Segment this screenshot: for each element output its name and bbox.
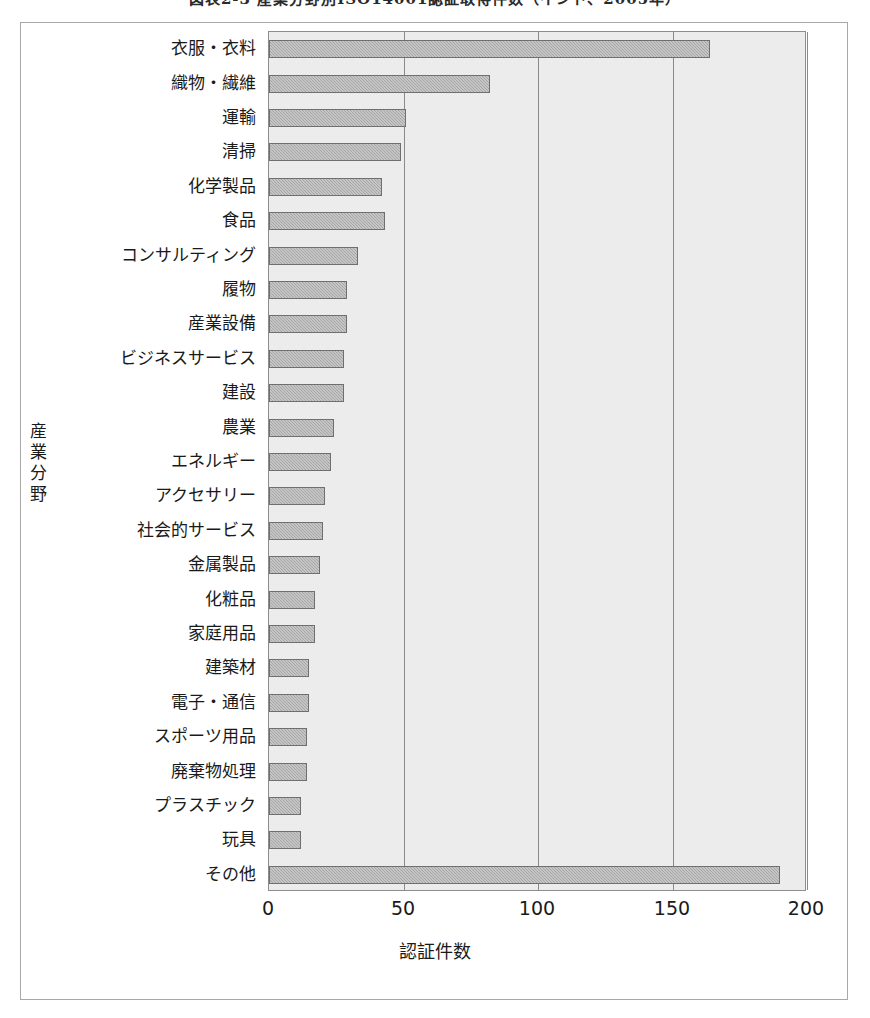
bar-row	[269, 143, 805, 161]
y-axis-label: 建設	[21, 383, 256, 401]
bar-row	[269, 797, 805, 815]
bar-row	[269, 281, 805, 299]
figure-caption-strip: 図表2-3 産業分野別ISO14001認証取得件数（インド、2005年）	[0, 0, 870, 15]
bar-row	[269, 40, 805, 58]
bar-row	[269, 556, 805, 574]
bar	[269, 487, 325, 505]
bar	[269, 109, 406, 127]
bar-row	[269, 522, 805, 540]
y-axis-title-char: 分	[25, 463, 51, 484]
figure-frame: 衣服・衣料織物・繊維運輸清掃化学製品食品コンサルティング履物産業設備ビジネスサー…	[20, 22, 848, 1000]
bar-row	[269, 384, 805, 402]
y-axis-title-char: 産	[25, 421, 51, 442]
bar	[269, 75, 490, 93]
bar	[269, 350, 344, 368]
y-axis-label: 廃棄物処理	[21, 762, 256, 780]
bar	[269, 694, 309, 712]
bar-row	[269, 866, 805, 884]
y-axis-label: コンサルティング	[21, 246, 256, 264]
x-tick-label: 0	[262, 897, 274, 919]
bar	[269, 40, 710, 58]
bar-row	[269, 591, 805, 609]
bar-row	[269, 763, 805, 781]
x-axis-title: 認証件数	[21, 937, 849, 963]
y-axis-label: 衣服・衣料	[21, 39, 256, 57]
y-axis-label: エネルギー	[21, 452, 256, 470]
bar	[269, 591, 315, 609]
y-axis-title-char: 業	[25, 442, 51, 463]
bar	[269, 797, 301, 815]
bar-row	[269, 694, 805, 712]
y-axis-category-labels: 衣服・衣料織物・繊維運輸清掃化学製品食品コンサルティング履物産業設備ビジネスサー…	[21, 31, 264, 891]
y-axis-label: プラスチック	[21, 796, 256, 814]
bar	[269, 178, 382, 196]
bar	[269, 831, 301, 849]
bar	[269, 247, 358, 265]
bar-row	[269, 419, 805, 437]
y-axis-label: 電子・通信	[21, 693, 256, 711]
bar-row	[269, 212, 805, 230]
bar-row	[269, 75, 805, 93]
bar-row	[269, 247, 805, 265]
bar-row	[269, 453, 805, 471]
bar-row	[269, 831, 805, 849]
plot-area	[268, 31, 806, 891]
y-axis-label: 金属製品	[21, 555, 256, 573]
bar	[269, 728, 307, 746]
y-axis-label: 清掃	[21, 142, 256, 160]
y-axis-label: 履物	[21, 280, 256, 298]
y-axis-label: 農業	[21, 418, 256, 436]
bar-row	[269, 728, 805, 746]
y-axis-title-char: 野	[25, 484, 51, 505]
y-axis-label: その他	[21, 865, 256, 883]
x-tick-label: 150	[654, 897, 690, 919]
bar	[269, 315, 347, 333]
y-axis-label: 社会的サービス	[21, 521, 256, 539]
y-axis-label: 家庭用品	[21, 624, 256, 642]
bar	[269, 453, 331, 471]
bar	[269, 212, 385, 230]
bar-row	[269, 659, 805, 677]
x-tick-label: 50	[391, 897, 415, 919]
y-axis-label: 食品	[21, 211, 256, 229]
bar-row	[269, 109, 805, 127]
x-axis-tick-labels: 050100150200	[268, 897, 806, 923]
bar-chart: 衣服・衣料織物・繊維運輸清掃化学製品食品コンサルティング履物産業設備ビジネスサー…	[21, 23, 849, 1001]
bar	[269, 866, 780, 884]
y-axis-label: アクセサリー	[21, 486, 256, 504]
bar	[269, 522, 323, 540]
x-tick-label: 200	[788, 897, 824, 919]
y-axis-label: 化学製品	[21, 177, 256, 195]
y-axis-label: スポーツ用品	[21, 727, 256, 745]
bar	[269, 659, 309, 677]
gridline-200	[807, 32, 808, 890]
x-tick-label: 100	[519, 897, 555, 919]
bar	[269, 625, 315, 643]
bar	[269, 143, 401, 161]
bar	[269, 763, 307, 781]
y-axis-label: 運輸	[21, 108, 256, 126]
bar	[269, 384, 344, 402]
bars-layer	[269, 32, 805, 890]
bar	[269, 281, 347, 299]
y-axis-label: 織物・繊維	[21, 74, 256, 92]
y-axis-label: 玩具	[21, 830, 256, 848]
y-axis-label: 建築材	[21, 658, 256, 676]
y-axis-label: 化粧品	[21, 590, 256, 608]
bar-row	[269, 178, 805, 196]
bar-row	[269, 487, 805, 505]
bar	[269, 419, 334, 437]
bar-row	[269, 315, 805, 333]
bar	[269, 556, 320, 574]
y-axis-title: 産業分野	[25, 421, 51, 505]
y-axis-label: 産業設備	[21, 314, 256, 332]
figure-caption: 図表2-3 産業分野別ISO14001認証取得件数（インド、2005年）	[0, 0, 870, 8]
bar-row	[269, 625, 805, 643]
y-axis-label: ビジネスサービス	[21, 349, 256, 367]
bar-row	[269, 350, 805, 368]
